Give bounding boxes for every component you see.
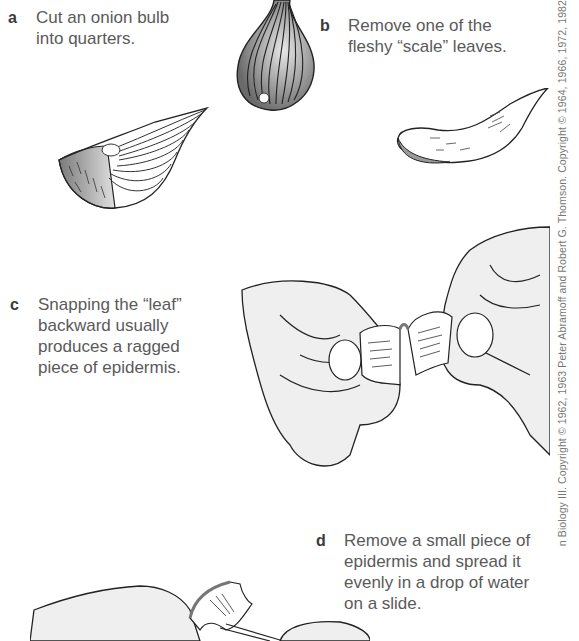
hands-snapping-icon — [240, 225, 550, 475]
step-text: Remove a small piece of epidermis and sp… — [344, 530, 530, 614]
hands-peeling-icon — [30, 560, 370, 641]
step-b: b Remove one of the fleshy “scale” leave… — [320, 15, 550, 65]
step-letter: b — [320, 15, 330, 36]
step-text: Snapping the “leaf” backward usually pro… — [38, 294, 182, 378]
step-text: Cut an onion bulb into quarters. — [36, 7, 169, 49]
credit-text: n Biology III. Copyright © 1962, 1963 Pe… — [556, 0, 568, 546]
whole-onion-icon — [228, 0, 318, 120]
step-c: c Snapping the “leaf” backward usually p… — [10, 294, 240, 384]
scale-leaf-icon — [390, 88, 550, 173]
step-a: a Cut an onion bulb into quarters. — [8, 7, 218, 57]
step-letter: c — [10, 294, 19, 315]
onion-quarter-icon — [55, 100, 215, 220]
copyright-credit: n Biology III. Copyright © 1962, 1963 Pe… — [556, 0, 570, 641]
step-text: Remove one of the fleshy “scale” leaves. — [348, 15, 507, 57]
step-letter: d — [316, 530, 326, 551]
step-letter: a — [8, 7, 17, 28]
